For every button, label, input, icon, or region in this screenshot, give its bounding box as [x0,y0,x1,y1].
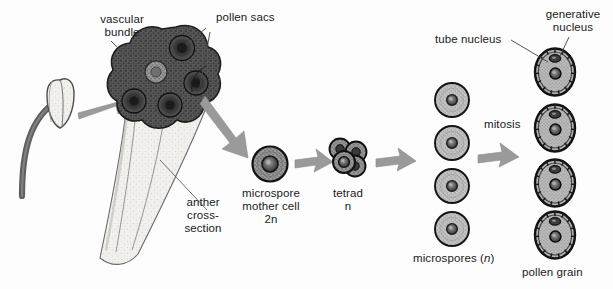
label-generative-nucleus: generative nucleus [535,8,611,34]
figure-canvas: vascular bundle pollen sacs anther cross… [0,0,613,289]
pollen-formation-diagram [0,0,613,289]
label-microspores-text: microspores ( [413,252,484,264]
label-tetrad: tetrad n [325,187,371,213]
pollen-sac-4 [158,93,182,117]
label-anther-cross-section: anther cross- section [168,196,238,235]
label-vascular-bundle: vascular bundle [84,13,160,39]
label-pollen-grain: pollen grain [522,266,583,279]
pollen-grain-3 [535,160,575,207]
pollen-grain-2 [535,105,575,152]
microspore-mother-cell-figure [253,147,288,182]
label-tube-nucleus: tube nucleus [435,33,501,46]
pollen-grain-1 [535,49,575,96]
pollen-sac-1 [170,36,195,61]
label-pollen-sacs: pollen sacs [216,11,275,24]
microspore-4 [435,212,469,246]
label-microspore-mother-cell: microspore mother cell 2n [231,187,311,226]
background [0,0,613,289]
pollen-sac-3 [122,89,146,113]
microspore-2 [435,126,469,160]
label-microspores: microspores (n) [413,252,494,265]
label-microspores-close: ) [490,252,494,264]
pollen-grain-4 [535,212,575,259]
label-mitosis: mitosis [484,118,520,131]
microspore-1 [435,83,469,117]
vascular-bundle-structure [145,61,167,83]
tetrad-cell-center [333,151,355,173]
microspore-3 [435,169,469,203]
